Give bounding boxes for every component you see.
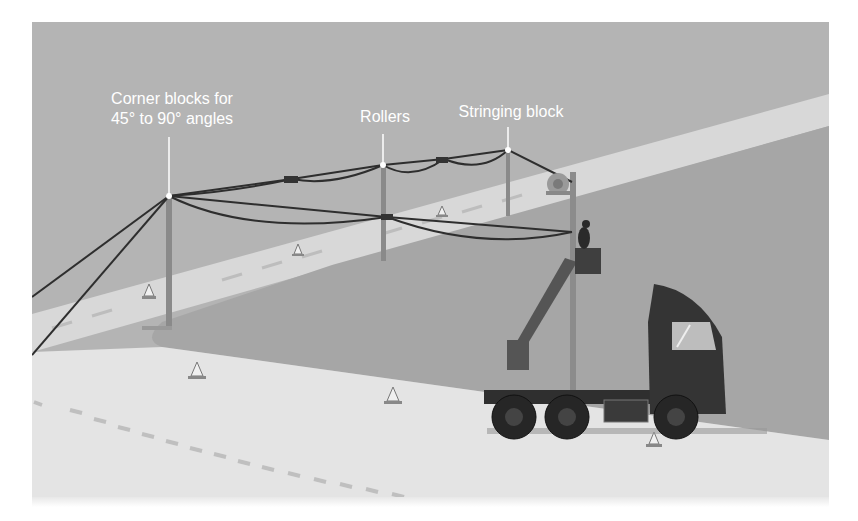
label-corner-blocks-line2: 45° to 90° angles	[92, 109, 252, 129]
bucket	[575, 248, 601, 274]
panel-bottom-edge	[32, 497, 829, 507]
label-stringing-block: Stringing block	[436, 102, 586, 122]
pole-stringing	[506, 150, 510, 216]
pole-truck	[570, 172, 576, 392]
label-corner-blocks-line1: Corner blocks for	[92, 89, 252, 109]
label-corner-blocks: Corner blocks for 45° to 90° angles	[92, 89, 252, 129]
label-rollers: Rollers	[350, 107, 420, 127]
worker	[578, 227, 590, 249]
illustration-panel: Corner blocks for 45° to 90° angles Roll…	[32, 22, 829, 497]
pole-corner	[166, 194, 172, 330]
pole-rollers	[381, 165, 386, 261]
